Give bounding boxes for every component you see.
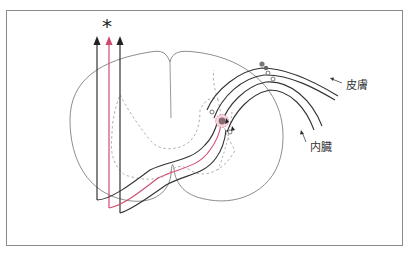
afferent-fiber-2 <box>214 75 335 118</box>
ganglion-cell-open-1 <box>266 71 270 75</box>
synapse-body <box>219 118 226 125</box>
spinal-cord-outline <box>70 51 283 201</box>
ganglion-cell-open-2 <box>271 77 275 81</box>
skin-pointer-arrowhead <box>330 78 334 82</box>
arrowhead-left <box>94 36 101 45</box>
terminal-open-1 <box>210 110 214 114</box>
dorsal-median-septum <box>170 62 171 118</box>
crossing-fiber-highlight <box>109 124 221 208</box>
spinal-cord-diagram <box>0 0 416 256</box>
skin-label: 皮膚 <box>346 80 368 91</box>
ganglion-cell-dark-2 <box>264 66 268 70</box>
afferent-fiber-1 <box>207 68 338 110</box>
ganglion-cell-dark <box>259 61 264 66</box>
viscera-label: 内臓 <box>310 142 332 153</box>
afferent-fiber-3 <box>221 82 322 126</box>
skin-pointer-line <box>332 79 342 83</box>
marker-asterisk: * <box>102 16 112 36</box>
arrowhead-right <box>117 36 124 45</box>
viscera-pointer-arrowhead <box>300 130 304 135</box>
terminal-arrow-2 <box>231 126 235 131</box>
